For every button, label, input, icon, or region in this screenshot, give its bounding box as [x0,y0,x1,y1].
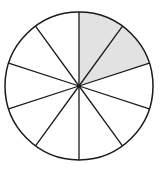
fraction-circle-diagram [0,0,162,173]
center-point [77,84,81,88]
